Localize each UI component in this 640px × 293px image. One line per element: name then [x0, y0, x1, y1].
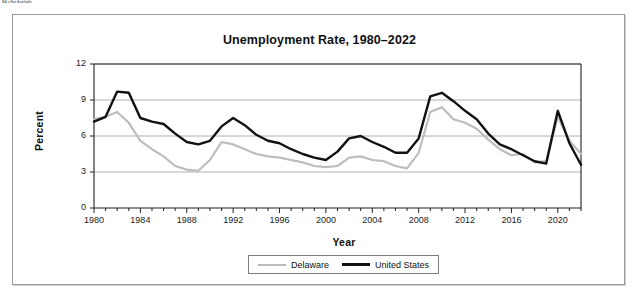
y-tick-label: 6 — [62, 130, 86, 140]
x-tick-label: 2008 — [402, 215, 436, 225]
x-tick-label: 1992 — [216, 215, 250, 225]
x-tick-label: 1988 — [170, 215, 204, 225]
legend-item-delaware: Delaware — [258, 260, 329, 270]
x-tick-label: 1980 — [77, 215, 111, 225]
legend-swatch-delaware-icon — [258, 264, 286, 266]
legend-label-united-states: United States — [375, 260, 429, 270]
x-tick-label: 2000 — [309, 215, 343, 225]
legend-item-united-states: United States — [342, 260, 429, 270]
y-tick-label: 9 — [62, 94, 86, 104]
legend-swatch-united-states-icon — [342, 263, 370, 266]
legend-label-delaware: Delaware — [291, 260, 329, 270]
screenshot-root: NA = Not Available Unemployment Rate, 19… — [0, 0, 640, 293]
x-tick-label: 1996 — [263, 215, 297, 225]
chart-container: Unemployment Rate, 1980–2022 Percent Yea… — [12, 14, 625, 285]
y-tick-label: 3 — [62, 166, 86, 176]
y-tick-label: 12 — [62, 58, 86, 68]
x-tick-label: 2016 — [494, 215, 528, 225]
x-tick-label: 2020 — [541, 215, 575, 225]
chart-legend: Delaware United States — [248, 255, 439, 274]
x-tick-label: 1984 — [123, 215, 157, 225]
x-tick-label: 2012 — [448, 215, 482, 225]
y-tick-label: 0 — [62, 202, 86, 212]
x-tick-label: 2004 — [355, 215, 389, 225]
footnote-text: NA = Not Available — [2, 0, 32, 4]
